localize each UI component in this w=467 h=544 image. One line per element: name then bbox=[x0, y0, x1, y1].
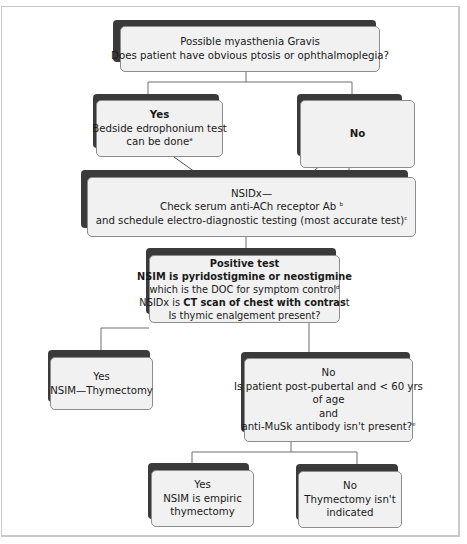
node-box: Positive test NSIM is pyridostigmine or … bbox=[149, 255, 340, 323]
no-label: No bbox=[350, 127, 366, 141]
edrophonium-text-2: can be donea bbox=[126, 135, 192, 149]
node-box: NSIDx— Check serum anti-ACh receptor Ab … bbox=[87, 177, 416, 237]
footnote-c: c bbox=[404, 215, 407, 221]
electrodiagnostic-body: and schedule electro-diagnostic testing … bbox=[96, 215, 405, 226]
musk-body: anti-MuSk antibody isn't present? bbox=[241, 421, 412, 432]
ct-bold: CT scan of chest with contras bbox=[183, 297, 346, 308]
ct-scan-text: NSIDx is CT scan of chest with contrast bbox=[139, 296, 349, 309]
footnote-d: d bbox=[336, 284, 340, 290]
pyridostigmine-text: NSIM is pyridostigmine or neostigmine bbox=[137, 270, 352, 283]
thymic-question: Is thymic enalgement present? bbox=[168, 309, 320, 322]
node-box: No bbox=[300, 100, 415, 168]
yes-label: Yes bbox=[150, 108, 169, 122]
footnote-b: b bbox=[339, 201, 343, 207]
doc-text: which is the DOC for symptom controld bbox=[149, 283, 339, 296]
electrodiagnostic-text: and schedule electro-diagnostic testing … bbox=[96, 214, 408, 228]
no-label: No bbox=[343, 479, 357, 493]
not-indicated-text: Thymectomy isn't bbox=[304, 493, 395, 507]
node-box: No Is patient post-pubertal and < 60 yrs… bbox=[244, 358, 413, 442]
age-question-2: of age bbox=[312, 393, 344, 407]
thymectomy-text: NSIM—Thymectomy bbox=[50, 384, 153, 398]
footnote-a: a bbox=[189, 136, 192, 142]
positive-test-title: Positive test bbox=[210, 257, 279, 270]
ct-suffix: t bbox=[346, 297, 350, 308]
ct-prefix: NSIDx is bbox=[139, 297, 183, 308]
start-question: Does patient have obvious ptosis or opht… bbox=[111, 49, 389, 63]
node-box: Yes NSIM—Thymectomy bbox=[50, 357, 153, 410]
not-indicated-text-2: indicated bbox=[326, 506, 373, 520]
yes-label: Yes bbox=[194, 478, 210, 492]
age-question: Is patient post-pubertal and < 60 yrs bbox=[234, 380, 423, 394]
no-label: No bbox=[322, 366, 336, 380]
footnote-e: e bbox=[412, 421, 415, 427]
doc-body: which is the DOC for symptom control bbox=[149, 284, 336, 295]
nsidx-heading: NSIDx— bbox=[231, 187, 272, 201]
and-text: and bbox=[319, 407, 338, 421]
edrophonium-text: Bedside edrophonium test bbox=[92, 122, 226, 136]
yes-label: Yes bbox=[93, 370, 109, 384]
serum-check-body: Check serum anti-ACh receptor Ab bbox=[160, 201, 339, 212]
serum-check-text: Check serum anti-ACh receptor Ab b bbox=[160, 200, 343, 214]
node-box: Possible myasthenia Gravis Does patient … bbox=[120, 26, 380, 72]
empiric-text: NSIM is empiric bbox=[163, 492, 242, 506]
node-box: Yes Bedside edrophonium test can be done… bbox=[96, 100, 223, 157]
edrophonium-text-2-body: can be done bbox=[126, 136, 189, 147]
empiric-text-2: thymectomy bbox=[170, 505, 234, 519]
node-box: Yes NSIM is empiric thymectomy bbox=[151, 470, 254, 527]
musk-question: anti-MuSk antibody isn't present?e bbox=[241, 420, 415, 434]
start-title: Possible myasthenia Gravis bbox=[180, 35, 320, 49]
node-box: No Thymectomy isn't indicated bbox=[298, 471, 402, 528]
